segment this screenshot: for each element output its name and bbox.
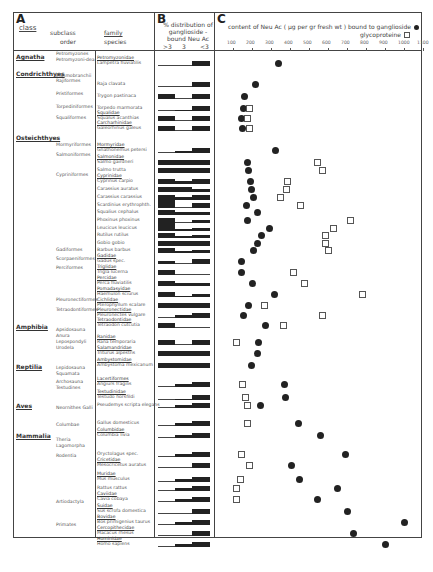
- bar-segment: [175, 454, 192, 457]
- x-tick-mark: [423, 48, 424, 51]
- bar-segment: [192, 303, 210, 308]
- bar-segment: [192, 382, 210, 387]
- bar-segment: [192, 168, 210, 173]
- ganglioside-point: [272, 147, 279, 154]
- bar-segment: [175, 110, 192, 111]
- order-label: Columbae: [56, 422, 96, 428]
- glycoprotein-point: [297, 202, 304, 209]
- glycoprotein-point: [238, 451, 245, 458]
- glycoprotein-point: [325, 247, 332, 254]
- class-label: Mammalia: [16, 432, 51, 439]
- distribution-bar: [158, 165, 210, 173]
- ganglioside-point: [258, 232, 265, 239]
- x-tick-mark: [328, 48, 329, 51]
- panel-b-tick-1: 3: [182, 43, 186, 50]
- class-label: Amphibia: [16, 323, 48, 330]
- bar-segment: [175, 479, 192, 482]
- x-tick-label: 100: [227, 40, 236, 45]
- class-label: Osteichthyes: [16, 134, 60, 141]
- distribution-bar: [158, 320, 210, 328]
- bar-segment: [192, 497, 210, 502]
- panel-b-tick-2: <3: [200, 43, 209, 50]
- distribution-bar: [158, 430, 210, 438]
- ganglioside-point: [344, 508, 351, 515]
- ganglioside-point: [238, 269, 245, 276]
- bar-segment: [175, 544, 192, 547]
- ganglioside-point: [257, 402, 264, 409]
- distribution-bar: [158, 348, 210, 356]
- order-label: Archosauna Testudines: [56, 379, 96, 390]
- panel-b-title: % distribution of ganglioside - bound Ne…: [163, 21, 213, 42]
- ganglioside-point: [382, 541, 389, 548]
- ganglioside-point: [254, 350, 261, 357]
- order-label: Apsidosauna Anura: [56, 327, 96, 338]
- glycoprotein-point: [347, 217, 354, 224]
- species-label: Angiurs fragilis: [97, 381, 131, 387]
- order-label: Gadiformes: [56, 247, 96, 253]
- ganglioside-point: [238, 258, 245, 265]
- bar-segment: [192, 542, 210, 547]
- ganglioside-point: [247, 178, 254, 185]
- bar-segment: [158, 168, 175, 173]
- bar-segment: [158, 248, 175, 253]
- species-label: Columbia livia: [97, 432, 130, 438]
- bar-segment: [175, 405, 192, 408]
- ganglioside-point: [271, 291, 278, 298]
- x-tick-label: 600: [322, 40, 331, 45]
- distribution-bar: [158, 506, 210, 514]
- species-label: Oryctolagus spec.: [97, 451, 138, 457]
- x-tick-label: 800: [360, 40, 369, 45]
- distribution-bar: [158, 256, 210, 264]
- ganglioside-point: [244, 159, 251, 166]
- distribution-bar: [158, 449, 210, 457]
- ganglioside-point: [252, 81, 259, 88]
- order-label: Pleuronectiformes: [56, 297, 96, 303]
- glycoprotein-point: [277, 194, 284, 201]
- species-label: Cavia cobaya: [97, 496, 128, 502]
- bar-segment: [192, 363, 210, 368]
- glycoprotein-point: [233, 496, 240, 503]
- distribution-bar: [158, 539, 210, 547]
- order-label: Mormyriformes: [56, 142, 96, 148]
- bar-segment: [192, 452, 210, 457]
- order-label: Primates: [56, 522, 96, 528]
- distribution-bar: [158, 176, 210, 184]
- distribution-bar: [158, 215, 210, 223]
- species-label: Mus musculus: [97, 476, 130, 482]
- bar-segment: [158, 323, 175, 328]
- glycoprotein-point: [280, 322, 287, 329]
- species-label: Gadus spec.: [97, 258, 125, 264]
- x-tick-mark: [366, 48, 367, 51]
- glycoprotein-point: [246, 462, 253, 469]
- order-label: Cypriniformes: [56, 172, 96, 178]
- bar-segment: [192, 61, 210, 66]
- ganglioside-point: [248, 362, 255, 369]
- ganglioside-point: [401, 519, 408, 526]
- species-label: Cyprinus carpio: [97, 178, 133, 184]
- distribution-bar: [158, 192, 210, 200]
- x-tick-label: 700: [341, 40, 350, 45]
- order-label: Squaliformes: [56, 115, 96, 121]
- ganglioside-point: [350, 530, 357, 537]
- distribution-bar: [158, 184, 210, 192]
- col-subclass-header: subclass: [50, 29, 76, 36]
- order-label: Rajiformes: [56, 78, 96, 84]
- distribution-bar: [158, 207, 210, 215]
- bar-segment: [175, 351, 192, 356]
- ganglioside-point: [250, 194, 257, 201]
- distribution-bar: [158, 245, 210, 253]
- distribution-bar: [158, 300, 210, 308]
- bar-segment: [192, 486, 210, 491]
- panel-a-b-divider: [154, 12, 155, 538]
- ganglioside-point: [266, 225, 273, 232]
- species-label: Pseudemys scripta elegans: [97, 402, 160, 408]
- species-label: Sus scrofa domestica: [97, 508, 146, 514]
- panel-c-title: content of Neu Ac ( µg per gr fresh wt )…: [228, 23, 419, 30]
- distribution-bar: [158, 474, 210, 482]
- class-label: Aves: [16, 402, 32, 409]
- panel-c-letter: C: [217, 12, 226, 26]
- ganglioside-point: [249, 280, 256, 287]
- distribution-bar: [158, 289, 210, 297]
- ganglioside-point: [282, 394, 289, 401]
- order-label: Lepidosauna Squamata: [56, 365, 96, 376]
